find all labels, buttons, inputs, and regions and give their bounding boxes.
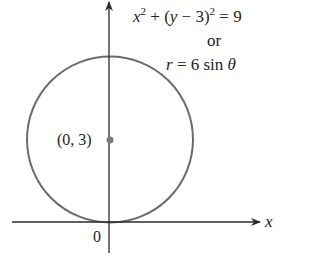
polar-circle-diagram: x2 + (y − 3)2 = 9 or r = 6 sin θ (0, 3) …	[0, 0, 315, 280]
center-point	[107, 137, 114, 144]
equation-connector: or	[207, 31, 222, 50]
equation-cartesian: x2 + (y − 3)2 = 9	[132, 5, 242, 26]
x-axis-label: x	[264, 212, 273, 231]
origin-label: 0	[93, 228, 101, 245]
equation-polar: r = 6 sin θ	[166, 55, 236, 74]
center-label: (0, 3)	[57, 131, 92, 149]
